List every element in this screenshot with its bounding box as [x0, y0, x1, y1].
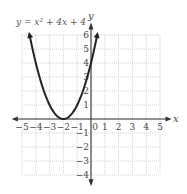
y-tick-label: 4 — [83, 58, 89, 68]
x-tick-label: −4 — [29, 122, 43, 132]
y-axis-label: y — [87, 10, 94, 21]
y-tick-label: 5 — [83, 44, 89, 54]
x-tick-label: −3 — [43, 122, 57, 132]
x-tick-label: 4 — [143, 122, 149, 132]
y-tick-label: −3 — [76, 156, 90, 166]
y-tick-label: −4 — [76, 170, 90, 180]
y-tick-label: 6 — [83, 30, 89, 40]
x-tick-label: 5 — [157, 122, 163, 132]
x-axis-label: x — [173, 113, 179, 124]
x-tick-label: 3 — [130, 122, 136, 132]
y-tick-label: −2 — [76, 142, 89, 152]
y-tick-label: 1 — [83, 100, 89, 110]
y-tick-label: −1 — [76, 128, 89, 138]
x-tick-label: 2 — [116, 122, 122, 132]
parabola-chart: −5−4−3−2−1012345−4−3−2−1123456 y = x² + … — [0, 0, 187, 194]
x-tick-label: 0 — [92, 122, 98, 132]
equation-label: y = x² + 4x + 4 — [15, 17, 86, 27]
x-tick-label: 1 — [102, 122, 108, 132]
x-tick-label: −2 — [57, 122, 70, 132]
x-tick-label: −5 — [15, 122, 29, 132]
